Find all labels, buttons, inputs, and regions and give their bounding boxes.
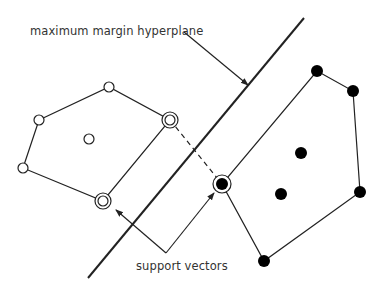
class-a-point — [34, 115, 44, 125]
margin-connector-dashed — [170, 120, 222, 184]
support-vector-pointer — [166, 193, 214, 253]
class-b-point — [275, 188, 287, 200]
class-b-point — [354, 186, 366, 198]
class-a-point — [18, 163, 28, 173]
class-a-support-vector — [165, 115, 175, 125]
class-a-points — [18, 82, 178, 209]
class-b-point — [258, 255, 270, 267]
class-b-point — [311, 65, 323, 77]
class-a-support-vector — [98, 196, 108, 206]
maximum-margin-hyperplane — [88, 18, 304, 278]
hyperplane-label-pointer — [184, 32, 248, 85]
svm-diagram — [0, 0, 387, 293]
class-a-point — [104, 82, 114, 92]
class-b-points — [213, 65, 366, 267]
class-b-point — [295, 147, 307, 159]
class-a-convex-hull — [23, 87, 170, 201]
class-b-point — [347, 85, 359, 97]
class-b-convex-hull — [222, 71, 360, 261]
class-b-support-vector — [216, 178, 228, 190]
class-a-point — [84, 134, 94, 144]
hyperplane-label: maximum margin hyperplane — [30, 24, 203, 38]
support-vectors-label: support vectors — [136, 259, 228, 273]
support-vector-pointer — [116, 210, 166, 253]
